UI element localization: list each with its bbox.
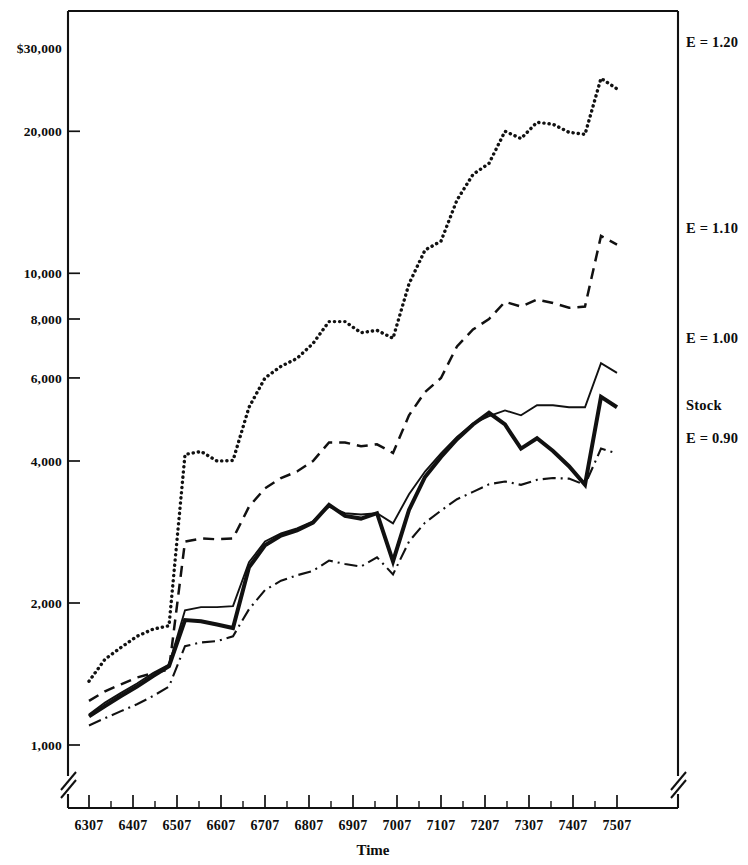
x-tick-label: 7307 — [515, 818, 544, 833]
series-label-e-1-20: E = 1.20 — [686, 34, 738, 50]
x-tick-label: 7007 — [383, 818, 412, 833]
y-axis-ticks — [68, 131, 80, 745]
series-label-e-0-90: E = 0.90 — [686, 430, 738, 446]
x-tick-label: 6507 — [163, 818, 192, 833]
series-line-stock — [89, 397, 617, 716]
x-tick-label: 6907 — [339, 818, 368, 833]
series-line-e-1-20 — [89, 78, 617, 681]
x-axis-ticks — [89, 795, 617, 808]
y-tick-label: 6,000 — [31, 371, 62, 386]
series-label-e-1-10: E = 1.10 — [686, 220, 738, 236]
x-tick-label: 7407 — [559, 818, 588, 833]
series-label-stock: Stock — [686, 397, 722, 413]
line-chart-plot: $30,00020,00010,0008,0006,0004,0002,0001… — [0, 0, 748, 865]
x-tick-label: 7107 — [427, 818, 456, 833]
x-tick-label: 6407 — [119, 818, 148, 833]
y-tick-label: 1,000 — [31, 738, 62, 753]
y-tick-label: $30,000 — [17, 41, 62, 56]
axis-break-marks — [61, 772, 686, 798]
x-tick-label: 7507 — [603, 818, 632, 833]
x-axis-title: Time — [356, 842, 389, 858]
series-line-e-1-10 — [89, 236, 617, 701]
chart-figure: $30,00020,00010,0008,0006,0004,0002,0001… — [0, 0, 748, 865]
y-tick-label: 8,000 — [31, 312, 62, 327]
series-line-e-1-00 — [89, 363, 617, 714]
y-tick-label: 10,000 — [24, 266, 62, 281]
y-tick-label: 2,000 — [31, 596, 62, 611]
x-tick-label: 6707 — [251, 818, 280, 833]
data-series-group — [89, 78, 617, 725]
x-tick-label: 6307 — [75, 818, 104, 833]
x-axis-tick-labels: 6307640765076607670768076907700771077207… — [75, 818, 632, 833]
y-tick-label: 20,000 — [24, 124, 62, 139]
series-line-e-0-90 — [89, 449, 617, 726]
x-tick-label: 6807 — [295, 818, 324, 833]
x-tick-label: 7207 — [471, 818, 500, 833]
y-axis-tick-labels: $30,00020,00010,0008,0006,0004,0002,0001… — [17, 41, 62, 753]
series-label-group: E = 1.20E = 1.10E = 1.00StockE = 0.90 — [686, 34, 738, 446]
series-label-e-1-00: E = 1.00 — [686, 330, 738, 346]
y-tick-label: 4,000 — [31, 454, 62, 469]
x-tick-label: 6607 — [207, 818, 236, 833]
